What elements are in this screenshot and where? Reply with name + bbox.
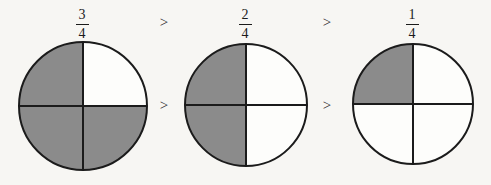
comparison-operator-middle-right: > — [318, 98, 336, 113]
fraction-comparison-diagram: 3 4 2 4 1 4 > > > > — [0, 0, 491, 185]
fraction-circle-svg — [350, 41, 476, 167]
fraction-circle-two-fourths — [182, 41, 310, 169]
comparison-operator-top-right: > — [318, 15, 336, 30]
fraction-denominator: 4 — [239, 26, 252, 41]
fraction-bar — [76, 24, 89, 25]
comparison-operator-middle-left: > — [155, 98, 173, 113]
fraction-bar — [239, 24, 252, 25]
fraction-circle-three-fourths — [16, 39, 150, 173]
fraction-label-three-fourths: 3 4 — [62, 8, 102, 41]
fraction-stack: 3 4 — [76, 8, 89, 41]
fraction-circle-one-fourth — [350, 41, 476, 167]
comparison-operator-top-left: > — [155, 15, 173, 30]
fraction-label-two-fourths: 2 4 — [225, 8, 265, 41]
fraction-denominator: 4 — [406, 26, 419, 41]
fraction-numerator: 3 — [76, 8, 89, 23]
fraction-stack: 1 4 — [406, 8, 419, 41]
fraction-circle-svg — [182, 41, 310, 169]
fraction-bar — [406, 24, 419, 25]
fraction-stack: 2 4 — [239, 8, 252, 41]
fraction-label-one-fourth: 1 4 — [392, 8, 432, 41]
fraction-numerator: 2 — [239, 8, 252, 23]
fraction-circle-svg — [16, 39, 150, 173]
fraction-numerator: 1 — [406, 8, 419, 23]
